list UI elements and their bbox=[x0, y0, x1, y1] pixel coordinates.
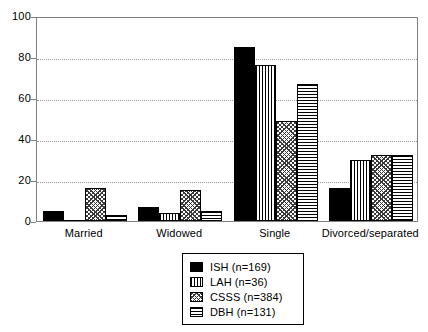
bar bbox=[180, 190, 201, 221]
bar-group bbox=[228, 18, 324, 221]
legend-item: ISH (n=169) bbox=[190, 259, 296, 274]
solid-swatch bbox=[190, 262, 203, 272]
bar bbox=[392, 155, 413, 221]
legend-item-label: LAH (n=36) bbox=[210, 276, 268, 288]
bar bbox=[64, 220, 85, 221]
y-tick-label: 20 bbox=[0, 175, 31, 186]
bar bbox=[234, 47, 255, 221]
horizontal-stripes-swatch bbox=[190, 307, 203, 317]
bar-chart: 020406080100 MarriedWidowedSingleDivorce… bbox=[0, 0, 428, 332]
bar bbox=[201, 211, 222, 221]
plot-area bbox=[36, 17, 418, 222]
y-tick-label: 40 bbox=[0, 134, 31, 145]
bar bbox=[138, 207, 159, 221]
chart-legend: ISH (n=169)LAH (n=36)CSSS (n=384)DBH (n=… bbox=[182, 253, 304, 325]
bar bbox=[255, 65, 276, 221]
legend-item: LAH (n=36) bbox=[190, 274, 296, 289]
legend-item-label: ISH (n=169) bbox=[210, 261, 271, 273]
bar-group bbox=[324, 18, 420, 221]
bar bbox=[43, 211, 64, 221]
legend-item-label: DBH (n=131) bbox=[210, 306, 276, 318]
vertical-stripes-swatch bbox=[190, 277, 203, 287]
bar bbox=[85, 188, 106, 221]
bar-group bbox=[37, 18, 133, 221]
legend-item: DBH (n=131) bbox=[190, 304, 296, 319]
y-tick-label: 0 bbox=[0, 216, 31, 227]
bar bbox=[297, 84, 318, 221]
bar bbox=[159, 213, 180, 221]
bar bbox=[350, 160, 371, 222]
bar-group bbox=[133, 18, 229, 221]
bar bbox=[276, 121, 297, 221]
y-tick-label: 60 bbox=[0, 93, 31, 104]
cross-hatch-swatch bbox=[190, 292, 203, 302]
y-tick-label: 80 bbox=[0, 52, 31, 63]
legend-item-label: CSSS (n=384) bbox=[210, 291, 282, 303]
bar bbox=[329, 188, 350, 221]
legend-item: CSSS (n=384) bbox=[190, 289, 296, 304]
bar bbox=[371, 155, 392, 221]
y-tick-label: 100 bbox=[0, 11, 31, 22]
bar bbox=[106, 215, 127, 221]
y-tick-mark bbox=[31, 222, 36, 223]
x-tick-label: Divorced/separated bbox=[310, 227, 428, 239]
